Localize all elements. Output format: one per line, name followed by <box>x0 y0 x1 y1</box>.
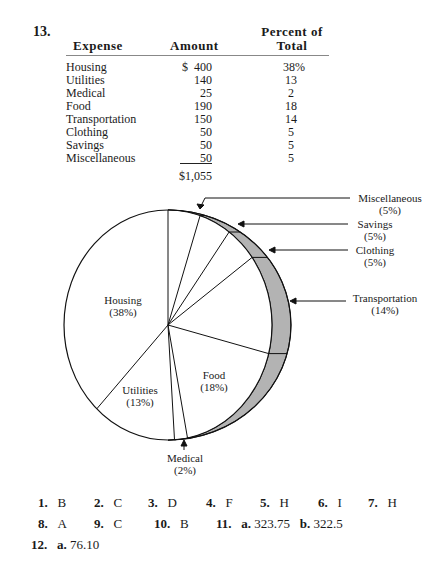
answers-row-3: 12. a. 76.10 <box>31 537 99 553</box>
label-savings-pct: (5%) <box>345 230 405 242</box>
answer-item: 4. F <box>206 495 233 511</box>
answer-item: 1. B <box>38 495 66 511</box>
label-savings: Savings <box>345 218 405 230</box>
label-food: Food <box>184 369 244 381</box>
label-food-pct: (18%) <box>184 381 244 393</box>
answer-item: 9. C <box>94 516 122 532</box>
label-housing-pct: (38%) <box>93 306 153 318</box>
label-utilities-pct: (13%) <box>110 396 170 408</box>
answer-value: 76.10 <box>70 537 99 552</box>
label-utilities: Utilities <box>110 384 170 396</box>
answer-item: 3. D <box>148 495 177 511</box>
label-housing: Housing <box>93 294 153 306</box>
label-transportation-pct: (14%) <box>345 304 425 316</box>
answer-item: 5. H <box>260 495 289 511</box>
label-clothing-pct: (5%) <box>345 256 405 268</box>
label-miscellaneous: Miscellaneous <box>350 192 430 204</box>
label-transportation: Transportation <box>345 292 425 304</box>
answer-item: 10. B <box>154 516 189 532</box>
answer-item: 7. H <box>368 495 397 511</box>
label-medical: Medical <box>155 452 215 464</box>
label-clothing: Clothing <box>345 244 405 256</box>
answer-part: a. <box>57 537 67 552</box>
answer-number: 12. <box>31 537 47 552</box>
answer-item: 8. A <box>38 516 67 532</box>
answer-item: 2. C <box>94 495 122 511</box>
answer-item: 6. I <box>318 495 342 511</box>
label-medical-pct: (2%) <box>155 464 215 476</box>
label-miscellaneous-pct: (5%) <box>350 204 430 216</box>
pie-chart <box>0 0 442 566</box>
answer-item: 11. a. 323.75 b. 322.5 <box>216 516 343 532</box>
